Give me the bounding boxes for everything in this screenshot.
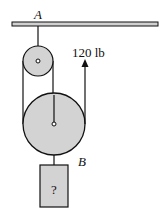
large-pulley-axle (52, 122, 56, 126)
pulley-diagram: A 120 lb B ? (0, 0, 168, 217)
force-arrow-head (82, 59, 89, 67)
label-b: B (78, 154, 86, 169)
label-a: A (33, 7, 42, 22)
small-pulley-axle (36, 59, 40, 63)
ceiling-beam (12, 22, 158, 26)
unknown-weight-label: ? (51, 182, 57, 197)
force-label: 120 lb (72, 45, 105, 60)
